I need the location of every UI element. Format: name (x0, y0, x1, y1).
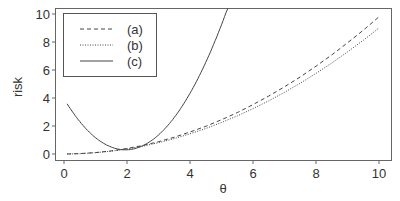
x-tick-label: 8 (312, 166, 319, 181)
y-tick-label: 10 (36, 7, 50, 22)
legend-label-c: (c) (127, 54, 142, 69)
y-axis: 0246810 (36, 7, 56, 162)
legend-label-b: (b) (127, 38, 143, 53)
y-tick-label: 8 (43, 35, 50, 50)
legend: (a) (b) (c) (64, 14, 157, 77)
y-axis-label: risk (10, 76, 25, 97)
y-tick-label: 2 (43, 119, 50, 134)
chart: 0246810 0246810 (a) (b) (c) θ risk (0, 0, 400, 201)
x-tick-label: 2 (123, 166, 130, 181)
x-tick-label: 10 (372, 166, 386, 181)
x-tick-label: 4 (186, 166, 193, 181)
x-axis: 0246810 (60, 161, 386, 182)
y-tick-label: 4 (43, 91, 50, 106)
y-tick-label: 6 (43, 63, 50, 78)
x-tick-label: 6 (249, 166, 256, 181)
y-tick-label: 0 (43, 147, 50, 162)
legend-label-a: (a) (127, 22, 143, 37)
x-tick-label: 0 (60, 166, 67, 181)
x-axis-label: θ (219, 181, 226, 196)
